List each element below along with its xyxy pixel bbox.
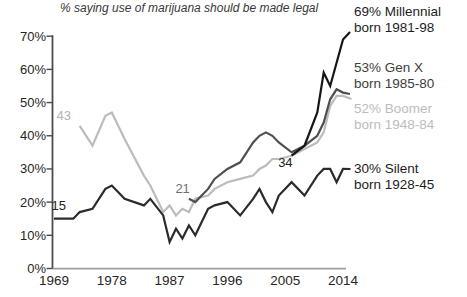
legend-entry-boomer: 52% Boomer born 1948-84 <box>354 101 434 133</box>
y-tick-label: 30% <box>6 161 46 176</box>
x-tick-label: 1987 <box>147 273 193 288</box>
legend-born-label: born 1981-98 <box>354 20 441 36</box>
series-line-boomer <box>80 96 352 215</box>
legend-entry-silent: 30% Silent born 1928-45 <box>354 161 434 193</box>
x-tick-label: 2005 <box>262 273 308 288</box>
chart-title: % saying use of marijuana should be made… <box>60 1 318 15</box>
chart-annotation-silent-start: 15 <box>51 199 65 212</box>
chart-annotation-genx-start: 21 <box>175 182 189 195</box>
y-tick-label: 20% <box>6 195 46 210</box>
legend-born-label: born 1985-80 <box>354 76 434 92</box>
x-tick-label: 1996 <box>204 273 250 288</box>
y-tick-label: 50% <box>6 95 46 110</box>
legend-born-label: born 1948-84 <box>354 117 434 133</box>
legend-value-label: 53% Gen X <box>354 60 434 76</box>
chart-annotation-millennial-start: 34 <box>278 156 292 169</box>
legend-entry-genx: 53% Gen X born 1985-80 <box>354 60 434 92</box>
legend-value-label: 52% Boomer <box>354 101 434 117</box>
x-tick-label: 1978 <box>89 273 135 288</box>
y-tick-label: 70% <box>6 29 46 44</box>
y-tick-label: 40% <box>6 128 46 143</box>
legend-entry-millennial: 69% Millennial born 1981-98 <box>354 4 441 36</box>
chart-annotation-boomer-start: 43 <box>57 109 71 122</box>
x-tick-label: 2014 <box>320 273 366 288</box>
marijuana-legalization-chart: % saying use of marijuana should be made… <box>0 0 467 297</box>
legend-value-label: 69% Millennial <box>354 4 441 20</box>
series-line-gen-x <box>189 89 350 202</box>
series-line-silent <box>54 169 351 242</box>
legend-born-label: born 1928-45 <box>354 177 434 193</box>
y-tick-label: 60% <box>6 62 46 77</box>
y-tick-label: 10% <box>6 228 46 243</box>
x-tick-label: 1969 <box>31 273 77 288</box>
chart-canvas <box>0 0 467 297</box>
legend-value-label: 30% Silent <box>354 161 434 177</box>
